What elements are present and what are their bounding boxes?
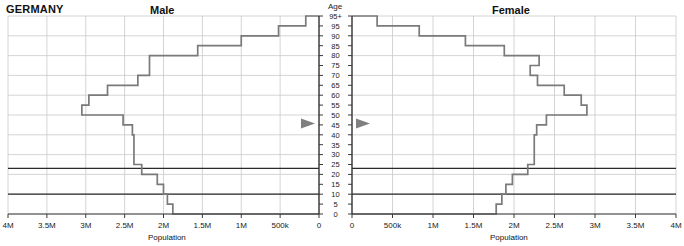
age-tick-label: 20	[331, 170, 339, 179]
median-age-marker-female	[356, 118, 370, 128]
x-tick-label: 0	[350, 221, 355, 230]
x-tick-label: 1.5M	[465, 221, 483, 230]
age-tick-label: 25	[331, 160, 339, 169]
right-axis-label: Population	[490, 233, 528, 242]
x-tick-label: 500k	[384, 221, 402, 230]
x-tick-label: 1.5M	[193, 221, 211, 230]
age-axis-ticks: 95+9590858075706560555045403530252015105…	[319, 12, 352, 219]
population-axis-ticks: 4M3.5M3M2.5M2M1.5M1M500k00500k1M1.5M2M2.…	[2, 214, 681, 230]
age-tick-label: 40	[331, 131, 339, 140]
age-tick-label: 75	[331, 61, 339, 70]
age-tick-label: 85	[331, 42, 339, 51]
x-tick-label: 2M	[158, 221, 169, 230]
population-pyramid-chart: GERMANY Male Female Age 95+9590858075706…	[0, 0, 684, 246]
left-axis-label: Population	[148, 233, 186, 242]
x-tick-label: 0	[317, 221, 322, 230]
x-tick-label: 4M	[670, 221, 681, 230]
age-tick-label: 0	[333, 210, 337, 219]
x-tick-label: 4M	[2, 221, 13, 230]
x-tick-label: 3M	[80, 221, 91, 230]
age-tick-label: 95+	[329, 12, 342, 21]
chart-canvas: 95+9590858075706560555045403530252015105…	[0, 0, 684, 246]
x-tick-label: 2.5M	[546, 221, 564, 230]
age-tick-label: 60	[331, 91, 339, 100]
age-tick-label: 50	[331, 111, 339, 120]
x-tick-label: 1M	[427, 221, 438, 230]
age-tick-label: 55	[331, 101, 339, 110]
age-tick-label: 15	[331, 180, 339, 189]
age-tick-label: 5	[333, 200, 337, 209]
median-age-marker-male	[301, 118, 315, 128]
age-tick-label: 35	[331, 141, 339, 150]
age-tick-label: 10	[331, 190, 339, 199]
x-tick-label: 3.5M	[627, 221, 645, 230]
age-tick-label: 95	[331, 22, 339, 31]
age-reference-lines	[8, 168, 676, 194]
x-tick-label: 2M	[508, 221, 519, 230]
age-tick-label: 70	[331, 71, 339, 80]
x-tick-label: 3.5M	[38, 221, 56, 230]
age-tick-label: 80	[331, 51, 339, 60]
age-tick-label: 90	[331, 32, 339, 41]
x-tick-label: 500k	[271, 221, 289, 230]
age-tick-label: 45	[331, 121, 339, 130]
x-tick-label: 1M	[236, 221, 247, 230]
x-tick-label: 2.5M	[116, 221, 134, 230]
age-tick-label: 65	[331, 81, 339, 90]
x-tick-label: 3M	[589, 221, 600, 230]
age-tick-label: 30	[331, 150, 339, 159]
